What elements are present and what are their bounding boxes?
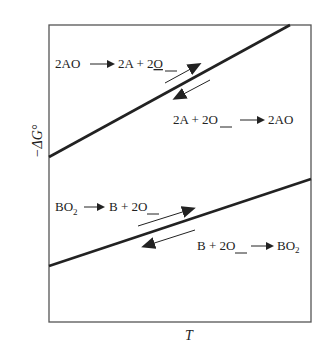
- y-axis-label: −ΔG°: [30, 124, 45, 158]
- label-ao-formation: 2A + 2O 2AO: [173, 112, 293, 127]
- plot-frame: [49, 25, 311, 322]
- svg-text:BO2: BO2: [277, 238, 300, 255]
- svg-text:BO2: BO2: [55, 199, 78, 217]
- x-axis-label: T: [185, 328, 194, 343]
- svg-text:B + 2O: B + 2O: [197, 238, 235, 253]
- arrow-up-ao: [165, 65, 198, 83]
- svg-text:2AO: 2AO: [268, 112, 293, 127]
- svg-text:2A + 2O: 2A + 2O: [118, 56, 163, 71]
- arrow-down-ao: [176, 80, 210, 98]
- label-ao-decomposition: 2AO 2A + 2O: [55, 56, 177, 71]
- line-ao: [49, 25, 290, 157]
- svg-text:B + 2O: B + 2O: [109, 199, 147, 214]
- label-bo2-formation: B + 2O BO2: [197, 238, 300, 255]
- diagram-canvas: 2AO 2A + 2O 2A + 2O 2AO BO2 B + 2O B + 2…: [0, 0, 325, 358]
- svg-text:2A + 2O: 2A + 2O: [173, 112, 218, 127]
- line-bo2: [49, 179, 311, 266]
- label-bo2-decomposition: BO2 B + 2O: [55, 199, 159, 217]
- label-text: 2AO: [55, 56, 80, 71]
